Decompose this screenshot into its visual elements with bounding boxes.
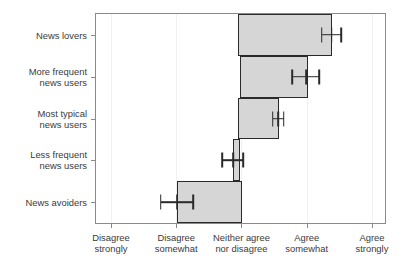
error-bar-cap-low xyxy=(272,111,274,126)
error-bar-center-tick xyxy=(305,69,307,84)
plot-area: News loversMore frequentnews usersMost t… xyxy=(95,13,386,224)
x-tick-label: Disagreestrongly xyxy=(92,232,130,254)
error-bar-center-tick xyxy=(232,153,234,168)
y-tick xyxy=(91,160,96,161)
x-tick-label-line: Agree xyxy=(285,232,328,243)
y-tick-label: Most typicalnews users xyxy=(38,108,88,130)
x-tick-label: Neither agreenor disagree xyxy=(213,232,270,254)
y-tick-label: News avoiders xyxy=(26,197,87,208)
y-tick-label-line: Most typical xyxy=(38,108,88,119)
error-bar-cap-low xyxy=(221,153,223,168)
x-tick xyxy=(372,223,373,228)
x-tick xyxy=(307,223,308,228)
error-bar-center-tick xyxy=(277,111,279,126)
x-tick xyxy=(241,223,242,228)
error-bar-cap-low xyxy=(292,69,294,84)
x-tick-label-line: Disagree xyxy=(155,232,198,243)
gridline-x-4 xyxy=(372,14,373,223)
error-bar-cap-high xyxy=(283,111,285,126)
x-tick-label-line: somewhat xyxy=(155,243,198,254)
x-tick xyxy=(176,223,177,228)
y-tick-label-line: news users xyxy=(30,160,87,171)
error-bar-cap-high xyxy=(243,153,245,168)
y-tick-label-line: news users xyxy=(29,77,87,88)
x-tick-label-line: strongly xyxy=(92,243,130,254)
y-tick-label-line: News lovers xyxy=(36,29,87,40)
y-tick-label-line: news users xyxy=(38,119,88,130)
x-tick-label: Agreesomewhat xyxy=(285,232,328,254)
y-tick xyxy=(91,202,96,203)
y-tick xyxy=(91,35,96,36)
error-bar-cap-high xyxy=(340,27,342,42)
y-tick-label: Less frequentnews users xyxy=(30,149,87,171)
y-tick-label-line: More frequent xyxy=(29,66,87,77)
error-bar-center-tick xyxy=(331,27,333,42)
x-tick-label-line: Neither agree xyxy=(213,232,270,243)
bar xyxy=(238,14,332,56)
error-bar-cap-low xyxy=(160,195,162,210)
y-tick xyxy=(91,77,96,78)
x-tick-label-line: nor disagree xyxy=(213,243,270,254)
gridline-x-0 xyxy=(111,14,112,223)
y-tick-label: News lovers xyxy=(36,29,87,40)
y-tick-label: More frequentnews users xyxy=(29,66,87,88)
y-tick xyxy=(91,119,96,120)
x-tick-label: Agreestrongly xyxy=(356,232,389,254)
x-tick-label: Disagreesomewhat xyxy=(155,232,198,254)
x-tick-label-line: somewhat xyxy=(285,243,328,254)
x-tick-label-line: Agree xyxy=(356,232,389,243)
error-bar-cap-high xyxy=(192,195,194,210)
x-tick-label-line: Disagree xyxy=(92,232,130,243)
y-tick-label-line: News avoiders xyxy=(26,197,87,208)
x-tick-label-line: strongly xyxy=(356,243,389,254)
y-tick-label-line: Less frequent xyxy=(30,149,87,160)
error-bar-cap-low xyxy=(321,27,323,42)
error-bar-cap-high xyxy=(318,69,320,84)
x-tick xyxy=(111,223,112,228)
error-bar-center-tick xyxy=(176,195,178,210)
chart-figure: News loversMore frequentnews usersMost t… xyxy=(0,0,411,269)
